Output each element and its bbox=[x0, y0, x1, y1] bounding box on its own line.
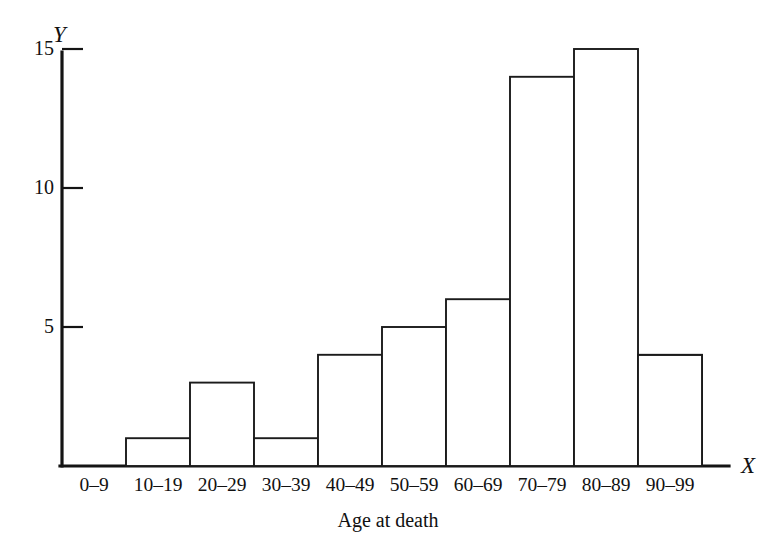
bar-50-59 bbox=[446, 299, 510, 466]
x-tick-label-3: 30–39 bbox=[262, 474, 311, 495]
y-tick-label-10: 10 bbox=[34, 176, 54, 198]
x-axis-name-label: X bbox=[740, 453, 756, 478]
y-axis-name-label: Y bbox=[53, 22, 68, 47]
bar-20-29 bbox=[254, 438, 318, 466]
x-tick-label-6: 60–69 bbox=[454, 474, 503, 495]
x-tick-label-0: 0–9 bbox=[79, 474, 108, 495]
bar-40-49 bbox=[382, 327, 446, 466]
x-tick-label-1: 10–19 bbox=[134, 474, 183, 495]
bar-10-19 bbox=[190, 383, 254, 466]
x-tick-label-4: 40–49 bbox=[326, 474, 375, 495]
bar-90-99 bbox=[638, 355, 702, 466]
x-axis-caption: Age at death bbox=[337, 509, 438, 532]
y-tick-label-5: 5 bbox=[44, 315, 54, 337]
y-tick-label-15: 15 bbox=[34, 37, 54, 59]
histogram-svg: 15 10 5 Y X 0–9 10–19 20–29 30–39 40–49 … bbox=[0, 0, 776, 559]
histogram-figure: 15 10 5 Y X 0–9 10–19 20–29 30–39 40–49 … bbox=[0, 0, 776, 559]
bar-60-69 bbox=[510, 77, 574, 466]
x-tick-label-5: 50–59 bbox=[390, 474, 439, 495]
bar-70-79 bbox=[574, 49, 638, 466]
bar-30-39 bbox=[318, 355, 382, 466]
x-tick-label-8: 80–89 bbox=[582, 474, 631, 495]
x-tick-label-7: 70–79 bbox=[518, 474, 567, 495]
bar-0-9 bbox=[126, 438, 190, 466]
x-tick-label-9: 90–99 bbox=[646, 474, 695, 495]
x-tick-label-2: 20–29 bbox=[198, 474, 247, 495]
bar-group bbox=[126, 49, 702, 466]
